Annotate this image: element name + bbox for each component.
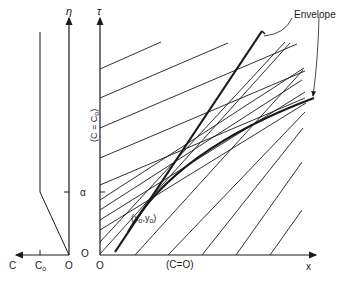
envelope-leader-2 [313,17,319,96]
initial-profile-curve [40,32,69,255]
envelope-label: Envelope [294,9,336,20]
x-axis-label: x [306,261,311,272]
c-axis-label: C [9,260,16,271]
envelope-leader-1 [264,18,292,36]
right-panel: τ x O (C = Co) (C=O) (xo,yo) Envelope [89,5,336,272]
left-panel: η C Co O α O [9,5,89,272]
point-x0-y0-label: (xo,yo) [131,213,156,224]
right-origin-label: O [96,260,104,271]
characteristics-diagram: η C Co O α O [0,0,340,283]
envelope-curve-lower [128,98,314,232]
left-origin-label: O [65,260,73,271]
eta-origin-label: O [81,248,89,259]
eta-axis-label: η [66,5,72,17]
characteristics-from-x-axis [135,70,305,255]
x-axis-condition-label: (C=O) [166,259,194,270]
c0-label: Co [35,260,46,272]
alpha-label: α [80,187,86,198]
tau-axis-condition-label: (C = Co) [89,109,100,142]
tau-axis-label: τ [97,5,102,17]
envelope-tick-top [262,31,265,34]
